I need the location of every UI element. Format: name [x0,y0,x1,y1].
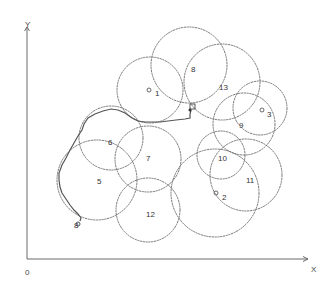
axes: Y X 0 [25,20,318,277]
circle-label: 13 [219,83,228,92]
center-point-icon [260,108,264,112]
circle-label: 1 [155,89,160,98]
x-axis-label: X [311,265,317,274]
circle-label: 3 [267,110,272,119]
y-axis-label: Y [25,20,31,29]
circle-region-9: 9 [213,93,275,155]
circle-region-1: 1 [117,57,183,123]
circle-region-7: 7 [115,126,181,192]
circle-outline [213,93,275,155]
circle-label: 5 [97,177,102,186]
circle-label: 11 [246,176,255,185]
circle-label: 12 [146,210,155,219]
circle-region-6: 6 [79,106,143,170]
circle-label: 10 [218,154,227,163]
circle-outline [210,139,282,211]
circles-layer: 1235678910111213 [57,27,287,242]
circle-label: 6 [108,138,113,147]
circle-label: 2 [222,193,227,202]
circle-label: 9 [239,121,244,130]
circle-label: 7 [146,154,151,163]
circle-outline [117,57,183,123]
circle-region-8: 8 [151,27,227,103]
center-point-icon [147,88,151,92]
circle-label: 8 [191,65,196,74]
start-marker: 8 [74,221,80,230]
start-label: 8 [74,221,79,230]
trajectory-path [59,109,191,221]
goal-dot-icon [189,109,192,112]
circle-region-12: 12 [116,178,180,242]
circle-outline [151,27,227,103]
circle-region-11: 11 [210,139,282,211]
circle-coverage-diagram: Y X 0 1235678910111213 8 [0,0,327,293]
origin-label: 0 [25,268,30,277]
